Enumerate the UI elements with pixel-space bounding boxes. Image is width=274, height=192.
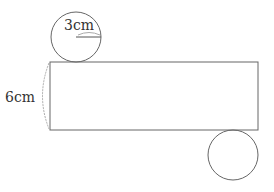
radius-label: 3cm [64,17,94,33]
lateral-surface-rectangle [50,62,258,130]
height-label: 6cm [5,89,35,105]
cylinder-net-diagram: 3cm 6cm [0,0,274,192]
bottom-circle-base [208,130,258,180]
height-brace [43,63,50,129]
